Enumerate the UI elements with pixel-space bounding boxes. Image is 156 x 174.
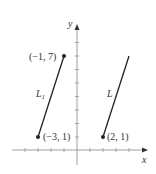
line-label-l: L xyxy=(106,88,113,99)
point-label-l-start: (2, 1) xyxy=(107,131,129,143)
line-label-l1: L1 xyxy=(35,88,45,101)
x-axis-label: x xyxy=(141,154,147,165)
x-axis-arrow-icon xyxy=(142,148,148,153)
point-label-l1-end: (−1, 7) xyxy=(29,51,56,63)
y-axis-arrow-icon xyxy=(75,24,80,30)
point-l1-end xyxy=(62,54,66,58)
point-l-start xyxy=(101,135,105,139)
point-label-l1-start: (−3, 1) xyxy=(43,131,70,143)
coordinate-diagram: y x (−1, 7) (−3, 1) (2, 1) L1 L xyxy=(0,0,156,174)
point-l1-start xyxy=(36,135,40,139)
y-axis-label: y xyxy=(67,18,73,29)
